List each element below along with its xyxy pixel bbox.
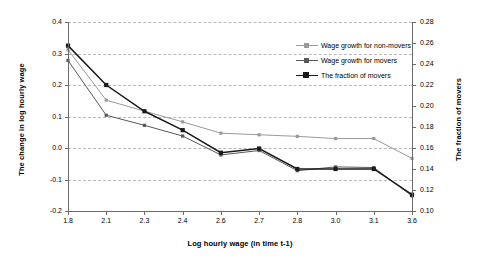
y-axis-left-tick-label: 0.0: [36, 144, 62, 151]
data-point-marker: [219, 151, 223, 155]
legend-item[interactable]: The fraction of movers: [296, 68, 446, 83]
x-axis-tick: [68, 211, 69, 215]
y-axis-left-tick-label: 0.2: [36, 81, 62, 88]
legend-label: Wage growth for movers: [321, 57, 397, 64]
y-axis-left-tick-label: -0.1: [36, 176, 62, 183]
data-point-marker: [219, 132, 222, 135]
legend-item[interactable]: Wage growth for non-movers: [296, 38, 446, 53]
x-axis-title: Log hourly wage (in time t-1): [60, 239, 420, 248]
chart-container: The change in log hourly wage The fracti…: [0, 0, 481, 258]
x-axis-tick-label: 2.8: [282, 217, 312, 224]
y-axis-right-tick-label: 0.16: [420, 144, 446, 151]
y-axis-left-tick: [65, 22, 68, 23]
y-axis-right-tick-label: 0.14: [420, 165, 446, 172]
data-point-marker: [296, 135, 299, 138]
data-point-marker: [105, 114, 108, 117]
y-axis-right-tick-label: 0.18: [420, 123, 446, 130]
data-point-marker: [104, 83, 108, 87]
x-axis-tick-label: 1.8: [53, 217, 83, 224]
y-axis-left-tick-label: -0.2: [36, 207, 62, 214]
data-point-marker: [295, 167, 299, 171]
legend-marker-icon: [296, 41, 318, 50]
x-axis-tick: [259, 211, 260, 215]
data-point-marker: [181, 128, 185, 132]
data-point-marker: [372, 137, 375, 140]
y-axis-right-tick: [412, 85, 416, 86]
x-axis-tick-label: 3.6: [397, 217, 427, 224]
y-axis-right-tick: [412, 148, 416, 149]
x-axis-tick-label: 2.4: [168, 217, 198, 224]
x-axis-tick-label: 2.1: [91, 217, 121, 224]
x-axis-tick: [144, 211, 145, 215]
data-point-marker: [181, 134, 184, 137]
data-point-marker: [142, 109, 146, 113]
y-axis-right-tick: [412, 22, 416, 23]
x-axis-line: [68, 211, 413, 212]
data-point-marker: [334, 137, 337, 140]
x-axis-tick: [221, 211, 222, 215]
data-point-marker: [257, 146, 261, 150]
data-point-marker: [143, 124, 146, 127]
y-axis-right-tick: [412, 106, 416, 107]
y-axis-left-tick: [65, 180, 68, 181]
y-axis-left-tick: [65, 117, 68, 118]
x-axis-tick: [336, 211, 337, 215]
x-axis-tick: [412, 211, 413, 215]
x-axis-tick-label: 3.0: [321, 217, 351, 224]
x-axis-tick: [374, 211, 375, 215]
y-axis-left-tick-label: 0.1: [36, 113, 62, 120]
data-point-marker: [181, 120, 184, 123]
y-axis-left-tick-label: 0.4: [36, 18, 62, 25]
x-axis-tick: [106, 211, 107, 215]
x-axis-tick-label: 2.6: [206, 217, 236, 224]
y-axis-right-title: The fraction of movers: [454, 55, 463, 185]
y-axis-left-line: [68, 22, 69, 212]
legend-marker-icon: [296, 56, 318, 65]
y-axis-right-tick: [412, 169, 416, 170]
y-axis-right-tick-label: 0.28: [420, 18, 446, 25]
y-axis-right-tick: [412, 190, 416, 191]
chart-legend: Wage growth for non-moversWage growth fo…: [296, 38, 446, 83]
y-axis-left-tick: [65, 54, 68, 55]
data-point-marker: [372, 167, 376, 171]
y-axis-left-tick-label: 0.3: [36, 50, 62, 57]
data-point-marker: [105, 99, 108, 102]
y-axis-left-tick: [65, 148, 68, 149]
x-axis-tick-label: 2.3: [129, 217, 159, 224]
x-axis-tick-label: 3.1: [359, 217, 389, 224]
legend-marker-icon: [296, 71, 318, 80]
legend-item[interactable]: Wage growth for movers: [296, 53, 446, 68]
x-axis-tick-label: 2.7: [244, 217, 274, 224]
x-axis-tick: [297, 211, 298, 215]
data-point-marker: [333, 167, 337, 171]
y-axis-right-tick-label: 0.12: [420, 186, 446, 193]
y-axis-left-tick: [65, 85, 68, 86]
data-point-marker: [258, 133, 261, 136]
y-axis-right-tick: [412, 127, 416, 128]
x-axis-tick: [183, 211, 184, 215]
y-axis-left-title: The change in log hourly wage: [17, 55, 26, 185]
legend-label: The fraction of movers: [321, 72, 391, 79]
y-axis-right-tick-label: 0.10: [420, 207, 446, 214]
legend-label: Wage growth for non-movers: [321, 42, 411, 49]
y-axis-right-tick-label: 0.20: [420, 102, 446, 109]
